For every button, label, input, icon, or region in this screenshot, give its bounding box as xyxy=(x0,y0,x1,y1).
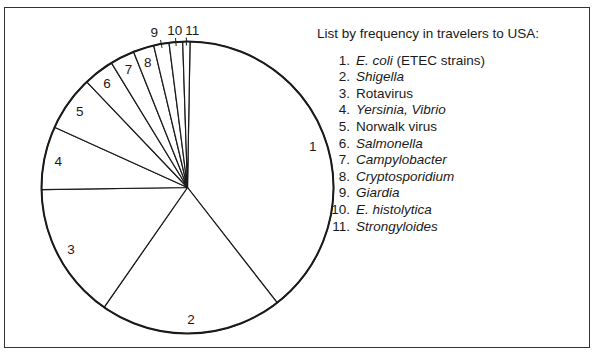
legend-item: 8.Cryptosporidium xyxy=(356,169,539,186)
slice-label-8: 8 xyxy=(144,55,152,70)
slice-label-1: 1 xyxy=(309,139,317,154)
pie-slices xyxy=(42,42,334,334)
slice-label-4: 4 xyxy=(55,154,63,169)
legend-item: 10.E. histolytica xyxy=(356,202,539,219)
legend-number: 1. xyxy=(339,53,350,70)
legend-number: 10. xyxy=(331,202,350,219)
legend-item: 3.Rotavirus xyxy=(356,86,539,103)
slice-label-2: 2 xyxy=(187,312,195,327)
slice-label-3: 3 xyxy=(67,242,75,257)
legend-item: 1.E. coli (ETEC strains) xyxy=(356,53,539,70)
slice-label-10: 10 xyxy=(167,23,182,38)
legend-item: 9.Giardia xyxy=(356,185,539,202)
slice-label-11: 11 xyxy=(185,23,199,38)
legend-text: Rotavirus xyxy=(356,86,413,101)
legend-number: 9. xyxy=(339,185,350,202)
legend-item: 2.Shigella xyxy=(356,69,539,86)
legend-text: Norwalk virus xyxy=(356,119,437,134)
legend-number: 2. xyxy=(339,69,350,86)
legend-number: 7. xyxy=(339,152,350,169)
legend-item: 6.Salmonella xyxy=(356,136,539,153)
legend-organism-name: Shigella xyxy=(356,69,404,84)
legend-organism-name: Strongyloides xyxy=(356,219,438,234)
legend-organism-name: Giardia xyxy=(356,185,400,200)
legend-title: List by frequency in travelers to USA: xyxy=(317,26,539,43)
slice-label-5: 5 xyxy=(76,104,84,119)
legend-item: 5.Norwalk virus xyxy=(356,119,539,136)
legend-organism-name: E. coli xyxy=(356,53,393,68)
legend-number: 8. xyxy=(339,169,350,186)
slice-label-6: 6 xyxy=(103,76,111,91)
legend-organism-name: Campylobacter xyxy=(356,152,447,167)
legend-item: 7.Campylobacter xyxy=(356,152,539,169)
legend-item: 4.Yersinia, Vibrio xyxy=(356,102,539,119)
slice-label-7: 7 xyxy=(125,62,133,77)
legend-organism-name: Cryptosporidium xyxy=(356,169,454,184)
legend-text: (ETEC strains) xyxy=(393,53,485,68)
legend-number: 11. xyxy=(332,219,350,236)
slice-label-9: 9 xyxy=(150,25,158,40)
legend-number: 5. xyxy=(339,119,350,136)
legend-organism-name: Yersinia, Vibrio xyxy=(356,102,446,117)
legend: List by frequency in travelers to USA: 1… xyxy=(317,26,539,235)
legend-organism-name: E. histolytica xyxy=(356,202,432,217)
legend-item: 11.Strongyloides xyxy=(356,219,539,236)
legend-organism-name: Salmonella xyxy=(356,136,423,151)
legend-list: 1.E. coli (ETEC strains)2.Shigella3.Rota… xyxy=(317,53,539,236)
legend-number: 6. xyxy=(339,136,350,153)
legend-number: 3. xyxy=(339,86,350,103)
legend-number: 4. xyxy=(339,102,350,119)
label-leader-line xyxy=(176,38,177,46)
